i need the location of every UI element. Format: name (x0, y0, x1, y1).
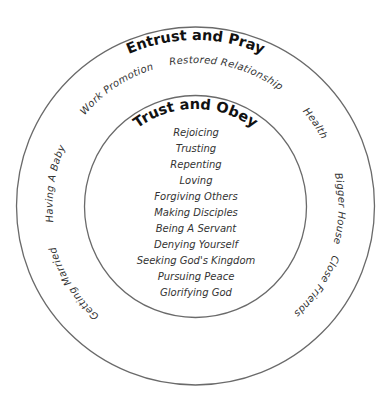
list-item: Glorifying God (160, 287, 232, 298)
list-item: Forgiving Others (154, 191, 237, 202)
outer-label-having-a-baby: Having A Baby (43, 142, 67, 223)
list-item: Seeking God's Kingdom (137, 255, 256, 266)
outer-label-bigger-house: Bigger House (332, 172, 348, 246)
inner-circle-title: Trust and Obey (130, 96, 261, 131)
list-item: Pursuing Peace (158, 271, 235, 282)
list-item: Repenting (170, 159, 221, 170)
outer-label-getting-married: Getting Married (46, 245, 100, 322)
outer-label-close-friends: Close Friends (292, 254, 341, 320)
list-item: Denying Yourself (154, 239, 239, 250)
list-item: Trusting (176, 143, 216, 154)
concentric-circles-diagram: Entrust and Pray Trust and Obey Restored… (0, 0, 390, 410)
list-item: Rejoicing (173, 127, 219, 138)
outer-label-restored-relationship: Restored Relationship (168, 54, 285, 92)
outer-ring-title: Entrust and Pray (124, 27, 268, 57)
outer-label-health: Health (301, 105, 330, 140)
outer-ring (17, 27, 375, 385)
inner-circle-list: Rejoicing Trusting Repenting Loving Forg… (137, 127, 256, 298)
list-item: Being A Servant (156, 223, 238, 234)
list-item: Loving (179, 175, 212, 186)
list-item: Making Disciples (154, 207, 238, 218)
